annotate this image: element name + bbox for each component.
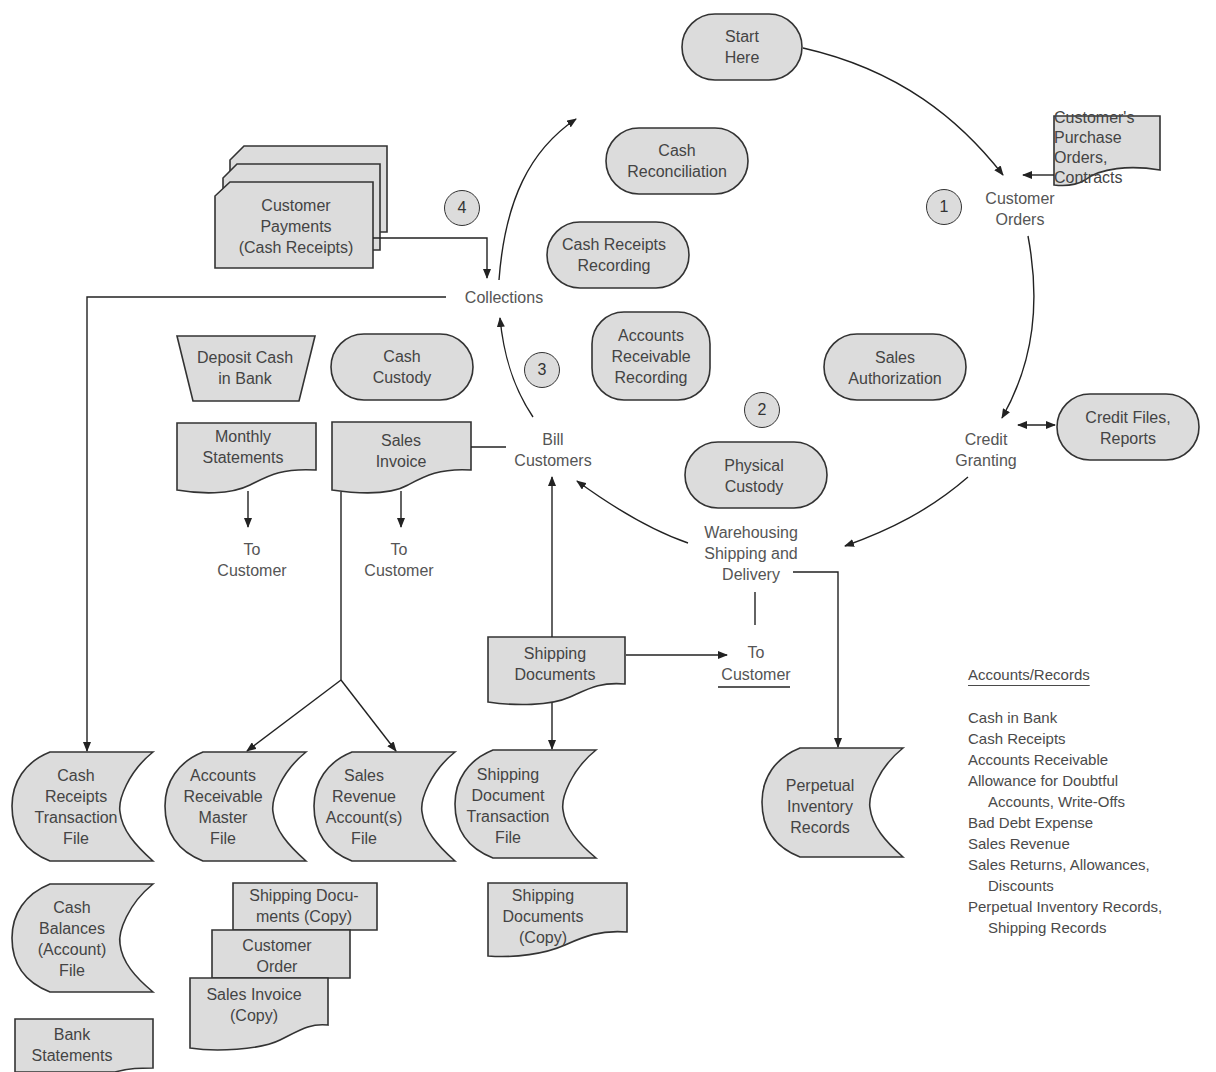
customer-orders-label: Customer Orders [985,188,1054,230]
start-here-label: Start Here [725,26,760,68]
shipping-docs-copy-stack-label: Shipping Docu- ments (Copy) [249,885,358,927]
sales-revenue-file-label: Sales Revenue Account(s) File [326,765,402,849]
monthly-statements-label: Monthly Statements [203,426,284,468]
shipping-doc-file-label: Shipping Document Transaction File [467,764,550,848]
to-customer-shipping-label-line1: To [748,642,765,663]
legend-item: Sales Returns, Allowances, [968,854,1162,875]
deposit-cash-label: Deposit Cash in Bank [197,347,293,389]
collections-label: Collections [465,287,543,308]
customer-po-label: Customer's Purchase Orders, Contracts [1054,108,1162,188]
legend-item: Sales Revenue [968,833,1162,854]
arc-credit-to-warehousing [845,477,968,546]
arc-orders-to-credit [1002,236,1034,418]
cash-reconciliation-label: Cash Reconciliation [627,140,727,182]
legend-item: Allowance for Doubtful [968,770,1162,791]
step-4-badge: 4 [444,190,480,226]
legend-item: Accounts Receivable [968,749,1162,770]
bill-customers-label: Bill Customers [514,429,591,471]
legend-item: Accounts, Write-Offs [968,791,1162,812]
bank-statements-label: Bank Statements [32,1024,113,1066]
credit-files-label: Credit Files, Reports [1085,407,1170,449]
ar-recording-label: Accounts Receivable Recording [611,325,690,388]
step-1-badge: 1 [926,189,962,225]
customer-payments-label: Customer Payments (Cash Receipts) [239,195,354,258]
to-customer-shipping-label-line2: Customer [721,664,790,685]
payments-to-collections [373,238,487,278]
cash-receipts-recording-label: Cash Receipts Recording [562,234,666,276]
legend-item: Discounts [968,875,1162,896]
ar-master-file-label: Accounts Receivable Master File [183,765,262,849]
cash-balances-file-label: Cash Balances (Account) File [38,897,106,981]
sales-invoice-copy-stack-label: Sales Invoice (Copy) [206,984,301,1026]
arc-warehousing-to-bill [577,481,688,543]
legend-item: Perpetual Inventory Records, [968,896,1162,917]
legend-item: Bad Debt Expense [968,812,1162,833]
cash-receipts-file-label: Cash Receipts Transaction File [35,765,118,849]
sales-invoice-label: Sales Invoice [376,430,427,472]
arc-start-to-orders [803,48,1003,175]
legend-item: Shipping Records [968,917,1162,938]
warehousing-label: Warehousing Shipping and Delivery [704,522,798,585]
step-3-badge: 3 [524,352,560,388]
invoice-fork-right [341,680,396,751]
sales-authorization-label: Sales Authorization [848,347,941,389]
warehousing-to-inventory [793,572,838,747]
to-customer-invoice-label: To Customer [364,539,433,581]
perpetual-inventory-label: Perpetual Inventory Records [786,775,855,838]
legend-item: Cash Receipts [968,728,1162,749]
customer-order-stack-label: Customer Order [242,935,311,977]
step-2-badge: 2 [744,392,780,428]
accounts-records-legend: Accounts/Records Cash in Bank Cash Recei… [968,664,1162,938]
physical-custody-label: Physical Custody [724,455,784,497]
cash-custody-label: Cash Custody [373,346,432,388]
shipping-docs-copy-label: Shipping Documents (Copy) [503,885,584,948]
invoice-fork-left [247,680,341,751]
shipping-documents-label: Shipping Documents [515,643,596,685]
credit-granting-label: Credit Granting [955,429,1016,471]
legend-item: Cash in Bank [968,707,1162,728]
to-customer-statements-label: To Customer [217,539,286,581]
legend-title: Accounts/Records [968,664,1162,685]
